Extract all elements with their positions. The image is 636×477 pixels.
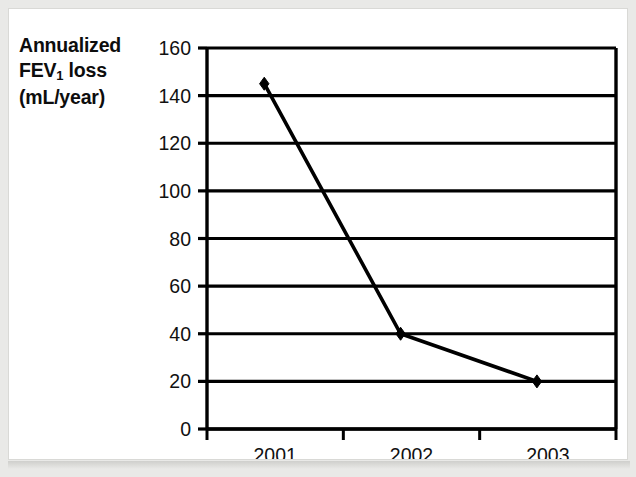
data-markers-group xyxy=(260,77,542,388)
x-tick-label: 2002 xyxy=(390,444,433,460)
y-tick-label: 160 xyxy=(158,37,191,59)
data-point-marker xyxy=(532,375,541,388)
x-tick-label: 2003 xyxy=(526,444,569,460)
chart-plot: 020406080100120140160 200120022003 xyxy=(9,9,628,460)
figure-root: Annualized FEV1 loss (mL/year) 020406080… xyxy=(0,0,636,477)
y-tick-label: 20 xyxy=(169,370,191,392)
y-tick-label: 120 xyxy=(158,132,191,154)
y-tick-label: 80 xyxy=(169,228,191,250)
x-tick-labels-group: 200120022003 xyxy=(253,444,569,460)
y-tick-label: 140 xyxy=(158,85,191,107)
y-tick-label: 60 xyxy=(169,275,191,297)
y-tick-label: 100 xyxy=(158,180,191,202)
y-tick-labels-group: 020406080100120140160 xyxy=(158,37,191,440)
y-tick-label: 0 xyxy=(180,418,191,440)
y-tick-label: 40 xyxy=(169,323,191,345)
x-tick-label: 2001 xyxy=(253,444,296,460)
gridlines-group xyxy=(207,48,616,429)
chart-canvas: Annualized FEV1 loss (mL/year) 020406080… xyxy=(8,8,628,460)
page-shadow xyxy=(8,461,630,469)
